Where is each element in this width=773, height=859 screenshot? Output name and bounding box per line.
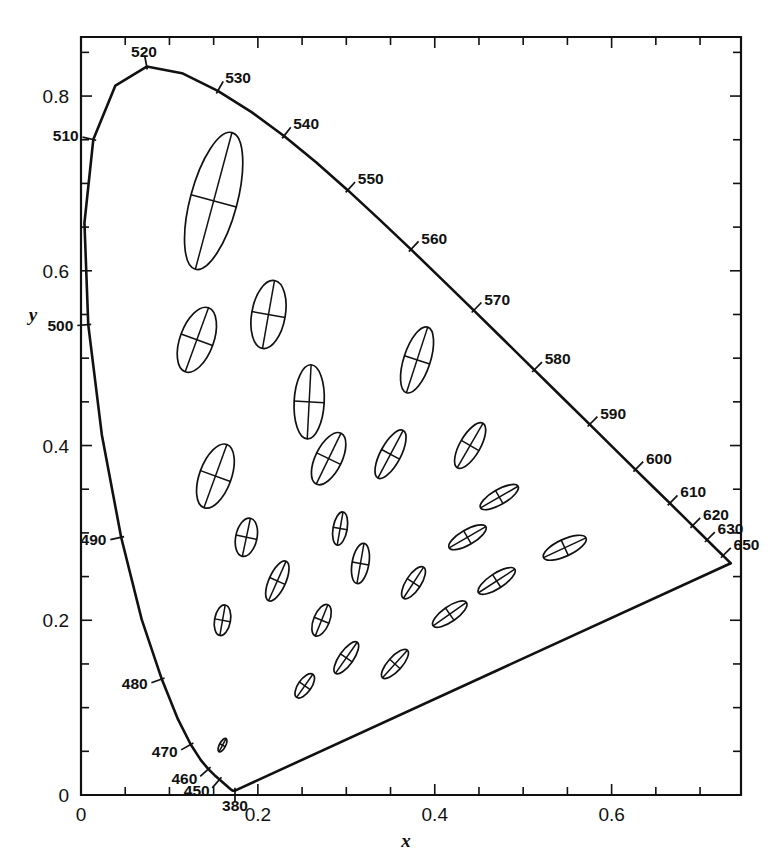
macadam-ellipse	[246, 278, 291, 352]
x-tick-label: 0.2	[245, 804, 271, 825]
wavelength-label-550: 550	[358, 170, 384, 187]
wavelength-label-470: 470	[152, 743, 178, 760]
x-axis-label: x	[400, 830, 411, 851]
x-tick-label: 0.4	[422, 804, 449, 825]
wavelength-tick	[77, 324, 91, 325]
wavelength-label-460: 460	[171, 770, 197, 787]
macadam-ellipse	[292, 364, 326, 440]
macadam-ellipse	[429, 596, 471, 632]
macadam-ellipse	[445, 520, 489, 554]
wavelength-label-600: 600	[646, 450, 672, 467]
x-tick-label: 0.6	[598, 804, 624, 825]
wavelength-tick	[200, 767, 210, 776]
macadam-ellipse	[189, 439, 242, 513]
wavelength-label-380: 380	[222, 797, 248, 814]
macadam-ellipse	[377, 645, 412, 682]
macadam-ellipse	[477, 480, 522, 515]
y-tick-label: 0.4	[43, 436, 70, 457]
macadam-ellipse	[474, 563, 519, 599]
wavelength-label-650: 650	[734, 536, 760, 553]
macadam-ellipse	[330, 638, 363, 677]
wavelength-label-610: 610	[680, 483, 706, 500]
macadam-ellipse	[330, 511, 350, 547]
spectral-locus	[84, 67, 730, 791]
wavelength-tick	[633, 462, 643, 472]
wavelength-label-490: 490	[81, 531, 107, 548]
plot-frame	[81, 37, 741, 795]
macadam-ellipse	[212, 604, 233, 637]
macadam-ellipse	[397, 563, 430, 602]
macadam-ellipse	[261, 558, 294, 604]
macadam-ellipse	[540, 530, 590, 565]
y-axis-label: y	[27, 304, 38, 325]
wavelength-tick	[690, 518, 700, 528]
macadam-ellipse	[349, 542, 373, 585]
wavelength-tick	[705, 532, 715, 542]
wavelength-label-590: 590	[600, 405, 626, 422]
wavelength-label-510: 510	[53, 127, 79, 144]
macadam-ellipse	[394, 323, 441, 397]
y-tick-label: 0	[58, 785, 69, 806]
macadam-ellipse	[232, 516, 261, 558]
wavelength-label-580: 580	[545, 350, 571, 367]
wavelength-tick	[668, 495, 678, 505]
y-tick-label: 0.8	[43, 86, 69, 107]
wavelength-label-540: 540	[293, 115, 319, 132]
wavelength-label-530: 530	[225, 69, 251, 86]
wavelength-tick	[532, 362, 542, 372]
macadam-ellipse	[173, 126, 255, 275]
chromaticity-svg: 00.20.40.600.20.40.60.8xy380450460470480…	[0, 0, 773, 859]
macadam-ellipse	[169, 302, 224, 377]
macadam-ellipse	[216, 737, 229, 753]
wavelength-label-520: 520	[131, 43, 157, 60]
wavelength-label-630: 630	[718, 520, 744, 537]
x-tick-label: 0	[76, 804, 87, 825]
y-tick-label: 0.6	[43, 261, 69, 282]
y-tick-label: 0.2	[43, 610, 69, 631]
wavelength-label-500: 500	[47, 317, 73, 334]
chromaticity-figure: 00.20.40.600.20.40.60.8xy380450460470480…	[0, 0, 773, 859]
wavelength-label-560: 560	[421, 230, 447, 247]
macadam-ellipse	[369, 426, 412, 483]
wavelength-label-570: 570	[484, 291, 510, 308]
macadam-ellipse	[308, 602, 335, 639]
macadam-ellipse	[291, 670, 318, 701]
wavelength-tick	[346, 182, 355, 192]
wavelength-tick	[588, 417, 598, 427]
wavelength-tick	[472, 303, 482, 313]
wavelength-tick	[409, 241, 419, 251]
macadam-ellipse	[448, 418, 491, 473]
wavelength-label-480: 480	[122, 675, 148, 692]
wavelength-tick	[721, 548, 731, 558]
